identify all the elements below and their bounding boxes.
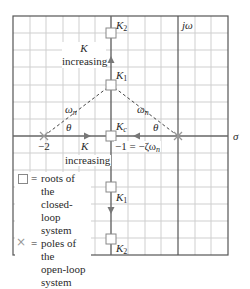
real-axis-label: σ	[233, 131, 238, 142]
k-increasing-mid-k: K	[81, 141, 88, 152]
label-kc: Kc	[116, 121, 127, 132]
root-k1-lower	[106, 182, 116, 192]
label-theta-left: θ	[66, 122, 71, 133]
arrow-down-icon	[108, 207, 115, 214]
label-k2-upper: K2	[116, 20, 127, 31]
legend-roots-line2: closed-loop	[15, 198, 91, 224]
label-k1-upper: K1	[116, 70, 127, 81]
arrow-right-icon	[84, 133, 91, 140]
legend-item-poles: × = poles of the	[15, 237, 91, 263]
legend: = roots of the closed-loop system × = po…	[15, 172, 91, 289]
label-breakaway-point: −1 = −ζωn	[114, 141, 161, 152]
arrow-up-icon	[108, 56, 115, 63]
imag-axis-label: jω	[182, 20, 193, 31]
legend-poles-line2: open-loop	[15, 263, 91, 276]
label-theta-right: θ	[153, 122, 158, 133]
omega-n-line-left	[44, 85, 111, 136]
label-k1-lower: K1	[116, 192, 127, 203]
arrow-left-icon	[133, 133, 140, 140]
k-increasing-upper: K increasing	[62, 42, 106, 68]
label-omega-n-right: ωn	[137, 104, 149, 115]
legend-poles-line3: system	[15, 276, 91, 289]
root-k2-upper	[106, 28, 116, 38]
legend-roots-line3: system	[15, 224, 91, 237]
k-increasing-mid-text: increasing	[65, 155, 111, 166]
root-k1-upper	[106, 80, 116, 90]
legend-item-roots: = roots of the	[15, 172, 91, 198]
square-icon	[15, 172, 31, 198]
cross-icon: ×	[15, 237, 31, 263]
root-k2-lower	[106, 234, 116, 244]
label-omega-n-left: ωn	[65, 104, 77, 115]
label-k2-lower: K2	[116, 243, 127, 254]
label-minus-two: −2	[38, 141, 50, 152]
